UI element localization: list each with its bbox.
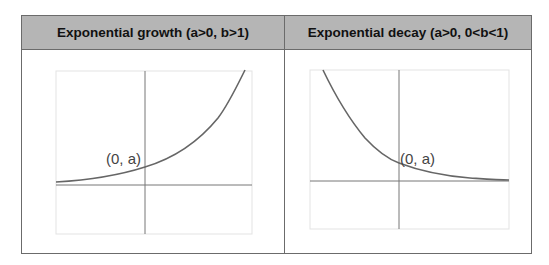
growth-plot-frame — [56, 71, 252, 234]
decay-plot: (0, a) — [310, 70, 509, 229]
growth-plot: (0, a) — [56, 70, 252, 234]
decay-intercept-label: (0, a) — [400, 150, 435, 167]
growth-intercept-label: (0, a) — [106, 150, 141, 167]
plots-canvas: (0, a) (0, a) — [0, 0, 549, 265]
